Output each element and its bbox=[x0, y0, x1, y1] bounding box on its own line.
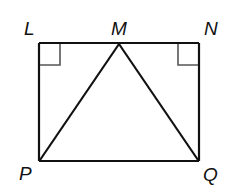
label-Q: Q bbox=[203, 164, 218, 185]
label-M: M bbox=[111, 18, 127, 39]
right-angle-mark-N bbox=[178, 44, 198, 65]
segment-MQ bbox=[119, 44, 198, 160]
geometry-diagram: L M N P Q bbox=[0, 0, 228, 196]
segment-MP bbox=[40, 44, 119, 160]
right-angle-marks bbox=[40, 44, 198, 65]
label-L: L bbox=[24, 18, 35, 39]
right-angle-mark-L bbox=[40, 44, 60, 65]
label-N: N bbox=[204, 18, 218, 39]
label-P: P bbox=[19, 163, 32, 184]
triangle-MPQ bbox=[40, 44, 198, 160]
rectangle-LNQP bbox=[39, 43, 199, 161]
